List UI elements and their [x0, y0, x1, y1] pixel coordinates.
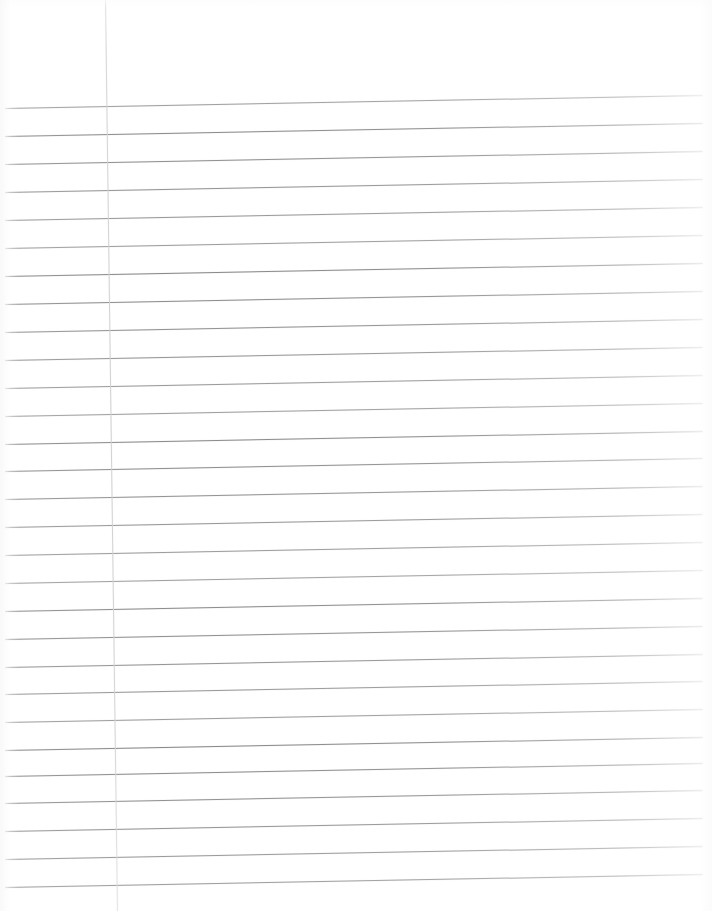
lined-paper-page — [0, 0, 712, 911]
